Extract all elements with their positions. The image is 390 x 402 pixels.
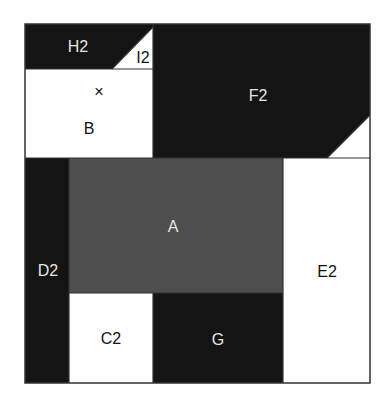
label-g: G <box>212 331 224 348</box>
label-c2: C2 <box>101 330 122 347</box>
partition-diagram: H2 I2 × B F2 A D2 E2 C2 G <box>0 0 390 402</box>
label-f2: F2 <box>249 87 268 104</box>
label-h2: H2 <box>68 38 89 55</box>
label-i2: I2 <box>136 49 149 66</box>
label-b-marker: × <box>94 83 103 100</box>
label-b: B <box>84 120 95 137</box>
region-b <box>25 69 153 158</box>
label-d2: D2 <box>38 262 59 279</box>
label-e2: E2 <box>317 263 337 280</box>
label-a: A <box>168 218 179 235</box>
